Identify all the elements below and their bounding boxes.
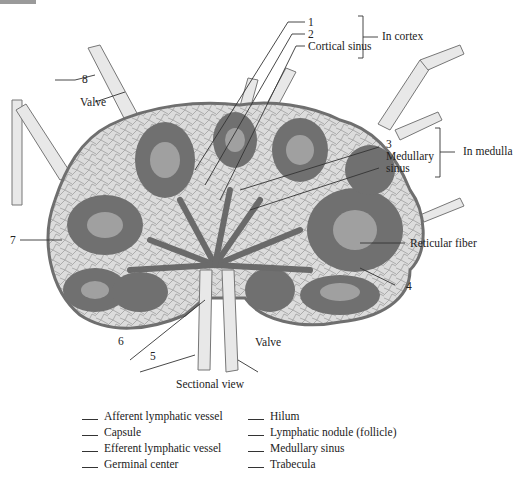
legend-item: Medullary sinus [248,440,396,456]
label-4: 4 [406,280,412,293]
label-in-medulla: In medulla [463,145,513,158]
answer-blank[interactable] [248,426,264,436]
label-valve-top: Valve [80,96,106,109]
label-6: 6 [118,335,124,348]
label-medullary-sinus-2: sinus [386,162,410,175]
label-in-cortex: In cortex [382,30,423,43]
legend-item: Efferent lymphatic vessel [82,440,223,456]
legend-item: Afferent lymphatic vessel [82,408,223,424]
label-reticular-fiber: Reticular fiber [410,237,477,250]
legend-item: Capsule [82,424,223,440]
label-valve-bottom: Valve [255,336,281,349]
answer-blank[interactable] [82,442,98,452]
legend-item: Lymphatic nodule (follicle) [248,424,396,440]
answer-blank[interactable] [248,410,264,420]
sectional-view-caption: Sectional view [176,378,244,391]
label-8: 8 [82,73,88,86]
answer-blank[interactable] [248,442,264,452]
legend-item: Hilum [248,408,396,424]
answer-blank[interactable] [82,410,98,420]
legend-item: Germinal center [82,456,223,472]
answer-blank[interactable] [82,426,98,436]
legend-item: Trabecula [248,456,396,472]
label-7: 7 [10,234,16,247]
legend-left-column: Afferent lymphatic vessel Capsule Effere… [82,408,223,472]
answer-blank[interactable] [82,458,98,468]
legend-right-column: Hilum Lymphatic nodule (follicle) Medull… [248,408,396,472]
label-5: 5 [150,350,156,363]
label-cortical-sinus: Cortical sinus [308,40,372,53]
answer-blank[interactable] [248,458,264,468]
